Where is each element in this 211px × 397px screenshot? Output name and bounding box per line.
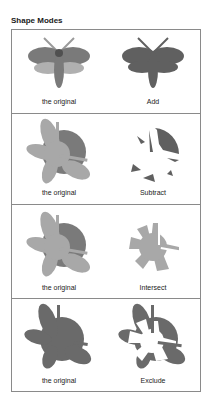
original-merged-cell: the original	[12, 299, 106, 391]
label-original: the original	[12, 98, 106, 105]
result-add-cell: Add	[106, 30, 200, 113]
original-flower-cell: the original	[12, 114, 106, 204]
result-intersect-cell: Intersect	[106, 205, 200, 298]
label-intersect: Intersect	[106, 284, 200, 291]
intersect-result-icon	[123, 215, 183, 275]
butterfly-add-icon	[118, 36, 188, 92]
label-subtract: Subtract	[106, 189, 200, 196]
page-title: Shape Modes	[11, 16, 63, 25]
panel-intersect: the original Intersect	[12, 205, 200, 299]
original-flower-cell: the original	[12, 205, 106, 298]
subtract-result-icon	[123, 124, 183, 184]
result-subtract-cell: Subtract	[106, 114, 200, 204]
flower-circle-original-icon	[24, 116, 94, 188]
shape-modes-figure: the original Add	[11, 29, 201, 392]
panel-add: the original Add	[12, 30, 200, 114]
original-butterfly-cell: the original	[12, 30, 106, 113]
result-exclude-cell: Exclude	[106, 299, 200, 391]
label-add: Add	[106, 98, 200, 105]
label-original: the original	[12, 377, 106, 384]
panel-subtract: the original Subtract	[12, 114, 200, 205]
merged-shape-original-icon	[24, 301, 94, 373]
label-original: the original	[12, 284, 106, 291]
label-original: the original	[12, 189, 106, 196]
exclude-result-icon	[118, 301, 188, 373]
label-exclude: Exclude	[106, 377, 200, 384]
flower-circle-original-icon	[24, 209, 94, 281]
panel-exclude: the original Exclude	[12, 299, 200, 391]
butterfly-original-icon	[24, 36, 94, 92]
